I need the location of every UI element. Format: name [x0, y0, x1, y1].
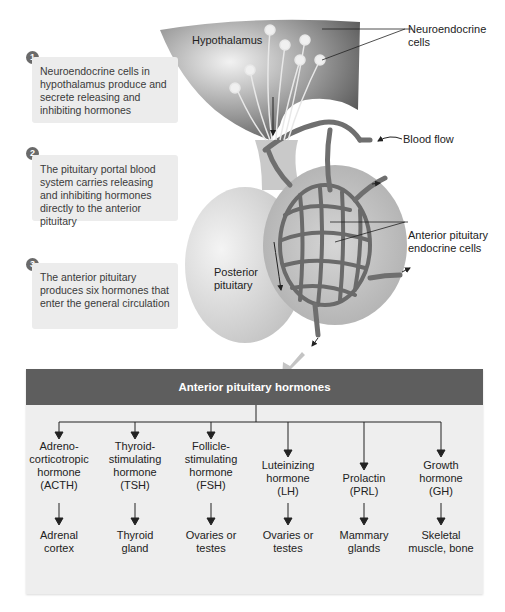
target-adrenal-cortex: Adrenal cortex — [17, 529, 101, 555]
hormone-name-line: Luteinizing — [248, 459, 328, 472]
hormone-acth: Adreno- corticotropic hormone (ACTH) — [19, 440, 99, 492]
hormone-abbrev: (LH) — [248, 485, 328, 498]
hormone-lh: Luteinizing hormone (LH) — [248, 459, 328, 498]
target-skeletal-muscle-bone: Skeletal muscle, bone — [399, 529, 483, 555]
target-line: Ovaries or — [169, 529, 253, 542]
target-line: Adrenal — [17, 529, 101, 542]
hormone-prl: Prolactin (PRL) — [324, 472, 404, 498]
target-line: Skeletal — [399, 529, 483, 542]
hormone-name-line: Adreno- — [19, 440, 99, 453]
hormone-abbrev: (PRL) — [324, 485, 404, 498]
target-line: Ovaries or — [246, 529, 330, 542]
target-line: Thyroid — [93, 529, 177, 542]
target-line: Mammary — [322, 529, 406, 542]
hormone-abbrev: (TSH) — [95, 479, 175, 492]
hormone-name-line: hormone — [401, 472, 481, 485]
hormone-name-line: Prolactin — [324, 472, 404, 485]
target-mammary-glands: Mammary glands — [322, 529, 406, 555]
hormone-name-line: Growth — [401, 459, 481, 472]
hormone-name-line: hormone — [19, 466, 99, 479]
hormone-gh: Growth hormone (GH) — [401, 459, 481, 498]
hormone-name-line: corticotropic — [19, 453, 99, 466]
target-line: testes — [169, 542, 253, 555]
hormone-name-line: hormone — [248, 472, 328, 485]
hormone-name-line: stimulating — [95, 453, 175, 466]
hormone-abbrev: (FSH) — [171, 479, 251, 492]
target-line: testes — [246, 542, 330, 555]
hormone-tsh: Thyroid- stimulating hormone (TSH) — [95, 440, 175, 492]
hormone-tree-connectors — [0, 0, 505, 612]
hormone-name-line: Follicle- — [171, 440, 251, 453]
target-line: glands — [322, 542, 406, 555]
hormone-name-line: hormone — [95, 466, 175, 479]
hormone-name-line: hormone — [171, 466, 251, 479]
hormone-name-line: Thyroid- — [95, 440, 175, 453]
target-ovaries-testes-fsh: Ovaries or testes — [169, 529, 253, 555]
target-line: gland — [93, 542, 177, 555]
hormone-name-line: stimulating — [171, 453, 251, 466]
hormone-fsh: Follicle- stimulating hormone (FSH) — [171, 440, 251, 492]
hormone-abbrev: (GH) — [401, 485, 481, 498]
target-thyroid-gland: Thyroid gland — [93, 529, 177, 555]
target-ovaries-testes-lh: Ovaries or testes — [246, 529, 330, 555]
target-line: cortex — [17, 542, 101, 555]
hormone-abbrev: (ACTH) — [19, 479, 99, 492]
target-line: muscle, bone — [399, 542, 483, 555]
